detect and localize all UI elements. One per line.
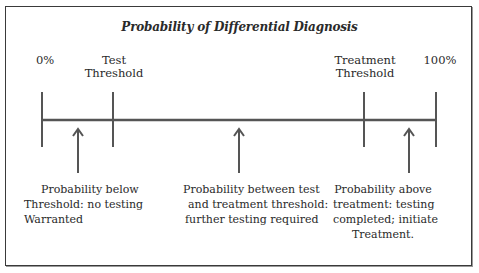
region-between-line3: further testing required [183, 212, 328, 227]
region-between-description: Probability between test and treatment t… [183, 182, 328, 227]
region-above-line2: treatment: testing [333, 197, 433, 212]
region-below-line1: Probability below [24, 182, 143, 197]
region-below-line3: Warranted [24, 212, 143, 227]
region-below-description: Probability below Threshold: no testing … [24, 182, 143, 227]
region-below-line2: Threshold: no testing [24, 197, 143, 212]
region-above-line1: Probability above [333, 182, 433, 197]
region-above-line3: completed; initiate [333, 212, 433, 227]
region-between-line1: Probability between test [183, 182, 328, 197]
region-between-line2: and treatment threshold: [183, 197, 328, 212]
region-above-description: Probability above treatment: testing com… [333, 182, 433, 242]
region-above-line4: Treatment. [333, 227, 433, 242]
